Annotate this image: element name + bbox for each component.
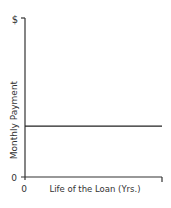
axes bbox=[21, 18, 162, 182]
x-axis-label: Life of the Loan (Yrs.) bbox=[49, 184, 140, 194]
y-tick-top: $ bbox=[12, 14, 18, 25]
y-axis-label: Monthly Payment bbox=[9, 80, 19, 159]
y-tick-zero: 0 bbox=[11, 173, 17, 183]
chart: $ 0 0 Life of the Loan (Yrs.) Monthly Pa… bbox=[0, 0, 171, 208]
x-tick-zero: 0 bbox=[21, 184, 27, 194]
